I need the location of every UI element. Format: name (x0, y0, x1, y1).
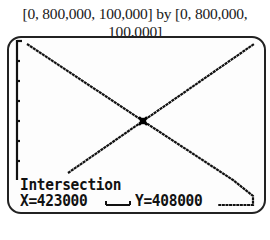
y-readout: Y=408000 (135, 194, 202, 209)
increasing-line (68, 44, 254, 173)
intersection-label: Intersection (20, 178, 121, 193)
y-axis (17, 40, 22, 180)
intersection-cursor-icon (139, 117, 147, 125)
readout-separators (106, 201, 130, 205)
x-readout: X=423000 (20, 194, 87, 209)
